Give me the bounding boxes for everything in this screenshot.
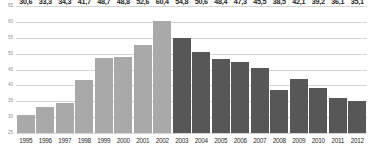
bar-item[interactable]: 48,4 bbox=[212, 6, 230, 133]
y-axis-tick-label: 40 bbox=[8, 83, 13, 88]
bar[interactable] bbox=[173, 38, 191, 133]
x-axis-tick-label: 1996 bbox=[36, 135, 54, 147]
x-axis-tick-label: 2000 bbox=[114, 135, 132, 147]
x-axis-tick-label: 2004 bbox=[192, 135, 210, 147]
y-axis-tick-label: 30 bbox=[8, 115, 13, 120]
bar-value-label: 54,8 bbox=[175, 0, 188, 5]
bar-item[interactable]: 33,3 bbox=[36, 6, 54, 133]
bar[interactable] bbox=[212, 59, 230, 133]
bar-item[interactable]: 34,3 bbox=[56, 6, 74, 133]
bar[interactable] bbox=[56, 103, 74, 133]
bar[interactable] bbox=[329, 98, 347, 133]
bar[interactable] bbox=[153, 21, 171, 133]
y-axis-tick-label: 55 bbox=[8, 35, 13, 40]
bar-item[interactable]: 48,8 bbox=[114, 6, 132, 133]
x-axis-tick-label: 2006 bbox=[231, 135, 249, 147]
bar-item[interactable]: 60,4 bbox=[153, 6, 171, 133]
bar-value-label: 30,6 bbox=[19, 0, 32, 5]
x-axis-tick-label: 2002 bbox=[153, 135, 171, 147]
x-axis-tick-label: 2009 bbox=[290, 135, 308, 147]
bar-item[interactable]: 36,1 bbox=[329, 6, 347, 133]
bar[interactable] bbox=[309, 88, 327, 133]
bar-value-label: 42,1 bbox=[292, 0, 305, 5]
bar[interactable] bbox=[348, 101, 366, 133]
bar[interactable] bbox=[270, 90, 288, 133]
bar-value-label: 50,6 bbox=[195, 0, 208, 5]
x-axis-tick-label: 2001 bbox=[134, 135, 152, 147]
y-axis-tick-label: 60 bbox=[8, 20, 13, 25]
bar[interactable] bbox=[290, 79, 308, 133]
bar-value-label: 39,2 bbox=[312, 0, 325, 5]
bar-item[interactable]: 47,3 bbox=[231, 6, 249, 133]
bar-chart: 656055504540353025 30,633,334,341,748,74… bbox=[0, 0, 369, 161]
plot-area: 30,633,334,341,748,748,852,660,454,850,6… bbox=[16, 6, 367, 133]
bar-item[interactable]: 38,5 bbox=[270, 6, 288, 133]
y-axis-tick-label: 45 bbox=[8, 67, 13, 72]
y-axis-tick-label: 25 bbox=[8, 131, 13, 136]
x-axis-tick-label: 2012 bbox=[348, 135, 366, 147]
x-axis: 1995199619971998199920002001200220032004… bbox=[16, 135, 367, 147]
bar-item[interactable]: 48,7 bbox=[95, 6, 113, 133]
bar-item[interactable]: 30,6 bbox=[17, 6, 35, 133]
bar-item[interactable]: 50,6 bbox=[192, 6, 210, 133]
bar-value-label: 38,5 bbox=[273, 0, 286, 5]
bar-item[interactable]: 39,2 bbox=[309, 6, 327, 133]
bar-value-label: 48,8 bbox=[117, 0, 130, 5]
y-axis-tick-label: 50 bbox=[8, 51, 13, 56]
bar-item[interactable]: 52,6 bbox=[134, 6, 152, 133]
x-axis-tick-label: 1997 bbox=[56, 135, 74, 147]
bar-item[interactable]: 54,8 bbox=[173, 6, 191, 133]
x-axis-tick-label: 2003 bbox=[173, 135, 191, 147]
x-axis-tick-label: 1995 bbox=[17, 135, 35, 147]
bar-value-label: 47,3 bbox=[234, 0, 247, 5]
bar[interactable] bbox=[134, 45, 152, 133]
bar-item[interactable]: 41,7 bbox=[75, 6, 93, 133]
y-axis-tick-label: 65 bbox=[8, 4, 13, 9]
x-axis-tick-label: 2007 bbox=[251, 135, 269, 147]
bar[interactable] bbox=[75, 80, 93, 133]
bar-value-label: 35,1 bbox=[351, 0, 364, 5]
bar[interactable] bbox=[114, 57, 132, 133]
bar-item[interactable]: 35,1 bbox=[348, 6, 366, 133]
bar-value-label: 52,6 bbox=[136, 0, 149, 5]
gridline bbox=[16, 133, 367, 134]
bar-value-label: 36,1 bbox=[331, 0, 344, 5]
y-axis-tick-label: 35 bbox=[8, 99, 13, 104]
bar-item[interactable]: 42,1 bbox=[290, 6, 308, 133]
bar-value-label: 33,3 bbox=[39, 0, 52, 5]
bar-value-label: 48,7 bbox=[97, 0, 110, 5]
x-axis-tick-label: 2008 bbox=[270, 135, 288, 147]
x-axis-tick-label: 1998 bbox=[75, 135, 93, 147]
bar-value-label: 41,7 bbox=[78, 0, 91, 5]
bar[interactable] bbox=[95, 58, 113, 133]
bar-value-label: 34,3 bbox=[58, 0, 71, 5]
x-axis-tick-label: 2011 bbox=[329, 135, 347, 147]
y-axis: 656055504540353025 bbox=[0, 6, 16, 133]
bar-series: 30,633,334,341,748,748,852,660,454,850,6… bbox=[16, 6, 367, 133]
bar-value-label: 45,5 bbox=[253, 0, 266, 5]
bar[interactable] bbox=[36, 107, 54, 133]
x-axis-tick-label: 2010 bbox=[309, 135, 327, 147]
bar-item[interactable]: 45,5 bbox=[251, 6, 269, 133]
bar[interactable] bbox=[251, 68, 269, 133]
bar[interactable] bbox=[17, 115, 35, 133]
bar[interactable] bbox=[231, 62, 249, 133]
x-axis-tick-label: 1999 bbox=[95, 135, 113, 147]
x-axis-tick-label: 2005 bbox=[212, 135, 230, 147]
bar-value-label: 60,4 bbox=[156, 0, 169, 5]
bar-value-label: 48,4 bbox=[214, 0, 227, 5]
bar[interactable] bbox=[192, 52, 210, 133]
